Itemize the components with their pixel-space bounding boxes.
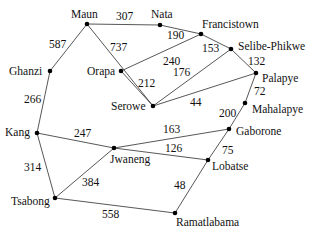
node-gaborone xyxy=(227,127,232,132)
node-maun xyxy=(85,22,90,27)
node-label-francistown: Francistown xyxy=(202,18,259,30)
node-label-orapa: Orapa xyxy=(87,65,115,78)
node-nata xyxy=(158,23,163,28)
edge-weight: 247 xyxy=(74,127,92,139)
node-jwaneng xyxy=(112,146,117,151)
node-francistown xyxy=(199,32,204,37)
edge-weight: 75 xyxy=(222,144,234,156)
edge-weight: 200 xyxy=(219,107,237,119)
edge-weight: 72 xyxy=(254,85,266,97)
edge-weight: 314 xyxy=(24,161,42,173)
node-label-nata: Nata xyxy=(151,8,173,20)
node-label-selibe-phikwe: Selibe-Phikwe xyxy=(238,40,305,52)
weighted-graph-diagram: 3075877371902402121531761324472200266247… xyxy=(0,0,309,231)
edge-weight: 212 xyxy=(138,77,156,89)
node-label-lobatse: Lobatse xyxy=(212,160,248,172)
node-tsabong xyxy=(53,196,58,201)
node-label-jwaneng: Jwaneng xyxy=(110,153,150,166)
node-ramatlabama xyxy=(173,211,178,216)
node-label-tsabong: Tsabong xyxy=(11,195,50,208)
node-label-mahalapye: Mahalapye xyxy=(252,103,303,116)
node-mahalapye xyxy=(243,101,248,106)
node-label-palapye: Palapye xyxy=(262,72,298,85)
edge-weight: 126 xyxy=(165,142,183,154)
edge-weight: 384 xyxy=(82,176,100,188)
node-orapa xyxy=(119,69,124,74)
edge-weight: 153 xyxy=(202,42,220,54)
edge-weight: 587 xyxy=(49,38,67,50)
edge-weight: 48 xyxy=(174,179,186,191)
edge-weight: 190 xyxy=(167,29,185,41)
node-label-gaborone: Gaborone xyxy=(236,125,281,137)
edge-weight: 737 xyxy=(110,41,128,53)
edge-weight: 266 xyxy=(24,93,42,105)
node-label-ramatlabama: Ramatlabama xyxy=(176,216,239,228)
edge-weights: 3075877371902402121531761324472200266247… xyxy=(24,10,266,220)
node-selibe-phikwe xyxy=(229,47,234,52)
edge-maun-nata xyxy=(87,24,160,25)
edge-weight: 44 xyxy=(190,96,202,108)
node-label-ghanzi: Ghanzi xyxy=(9,65,42,77)
edge-weight: 163 xyxy=(163,123,181,135)
node-palapye xyxy=(254,71,259,76)
node-serowe xyxy=(151,104,156,109)
edge-weight: 132 xyxy=(248,55,266,67)
edge-serowe-palapye xyxy=(153,73,256,106)
edge-jwaneng-tsabong xyxy=(55,148,114,198)
edge-weight: 307 xyxy=(116,10,134,22)
node-ghanzi xyxy=(48,69,53,74)
node-kang xyxy=(35,131,40,136)
node-label-maun: Maun xyxy=(71,8,98,20)
node-label-serowe: Serowe xyxy=(111,100,146,112)
edge-weight: 176 xyxy=(173,66,191,78)
edge-weight: 558 xyxy=(102,208,120,220)
node-lobatse xyxy=(206,158,211,163)
node-label-kang: Kang xyxy=(5,126,30,139)
